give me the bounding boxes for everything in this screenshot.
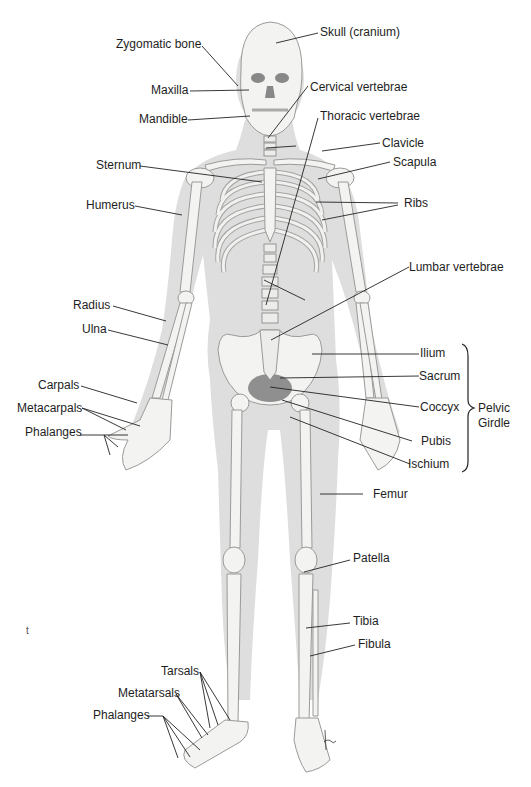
label-ribs: Ribs (404, 197, 428, 210)
pelvic-girdle-brace (462, 344, 474, 472)
label-humerus: Humerus (86, 199, 135, 212)
label-fibula: Fibula (358, 638, 391, 651)
label-skull: Skull (cranium) (320, 26, 400, 39)
label-sacrum: Sacrum (419, 370, 460, 383)
label-pelvic: Pelvic (478, 402, 510, 415)
label-tibia: Tibia (353, 615, 379, 628)
label-clavicle: Clavicle (382, 137, 424, 150)
label-sternum: Sternum (96, 159, 141, 172)
artist-signature (324, 730, 336, 750)
label-phalanges-hand: Phalanges (25, 426, 82, 439)
skeleton-illustration (0, 0, 531, 787)
label-ilium: Ilium (420, 347, 445, 360)
label-ulna: Ulna (82, 323, 107, 336)
label-mandible: Mandible (139, 113, 188, 126)
label-carpals: Carpals (38, 379, 79, 392)
label-tarsals: Tarsals (161, 665, 199, 678)
label-girdle: Girdle (478, 417, 510, 430)
label-lumbar-vertebrae: Lumbar vertebrae (409, 261, 504, 274)
label-cervical-vertebrae: Cervical vertebrae (310, 81, 407, 94)
label-radius: Radius (73, 299, 110, 312)
label-ischium: Ischium (408, 458, 449, 471)
label-patella: Patella (353, 552, 390, 565)
label-phalanges-foot: Phalanges (93, 709, 150, 722)
label-coccyx: Coccyx (420, 401, 459, 414)
label-thoracic-vertebrae: Thoracic vertebrae (320, 110, 420, 123)
margin-mark: t (26, 624, 29, 637)
skeleton-diagram: Skull (cranium) Zygomatic bone Maxilla C… (0, 0, 531, 787)
label-pubis: Pubis (421, 435, 451, 448)
label-metacarpals: Metacarpals (17, 402, 82, 415)
label-scapula: Scapula (393, 156, 436, 169)
label-zygomatic-bone: Zygomatic bone (116, 38, 201, 51)
label-femur: Femur (373, 488, 408, 501)
label-metatarsals: Metatarsals (118, 687, 180, 700)
label-maxilla: Maxilla (151, 84, 188, 97)
